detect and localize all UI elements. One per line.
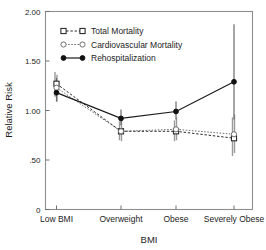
data-point-marker — [118, 129, 123, 134]
data-point-marker — [231, 132, 236, 137]
series-markers — [54, 79, 237, 140]
legend-marker — [61, 56, 66, 61]
y-axis-title: Relative Risk — [3, 82, 14, 138]
x-tick-label: Overweight — [100, 214, 144, 224]
data-point-marker — [54, 90, 59, 95]
legend-label: Rehospitalization — [91, 53, 156, 63]
data-point-marker — [232, 79, 237, 84]
chart-figure: 0.501.001.502.00 Low BMIOverweightObeseS… — [0, 0, 266, 250]
x-tick-label: Severely Obese — [204, 214, 265, 224]
x-tick-label: Obese — [163, 214, 188, 224]
data-point-marker — [119, 116, 124, 121]
series-lines — [57, 82, 235, 138]
y-tick-label: 2.00 — [25, 8, 41, 17]
y-tick-label: 1.50 — [25, 57, 41, 66]
data-point-marker — [54, 85, 59, 90]
chart-legend: Total MortalityCardiovascular MortalityR… — [61, 26, 183, 63]
series-line — [57, 82, 235, 119]
legend-marker — [80, 28, 85, 33]
x-tick-label: Low BMI — [40, 214, 73, 224]
legend-marker — [61, 42, 66, 47]
legend-marker — [80, 42, 85, 47]
series-line — [57, 88, 235, 135]
data-point-marker — [174, 109, 179, 114]
y-tick-label: .50 — [29, 156, 41, 165]
legend-label: Cardiovascular Mortality — [91, 40, 183, 50]
legend-item[interactable]: Rehospitalization — [61, 53, 156, 63]
x-axis-title: BMI — [141, 234, 158, 245]
legend-label: Total Mortality — [91, 26, 144, 36]
data-point-marker — [173, 127, 178, 132]
legend-item[interactable]: Cardiovascular Mortality — [61, 40, 183, 50]
relative-risk-by-bmi-chart: 0.501.001.502.00 Low BMIOverweightObeseS… — [0, 0, 266, 250]
legend-item[interactable]: Total Mortality — [61, 26, 144, 36]
legend-marker — [80, 56, 85, 61]
y-tick-label: 1.00 — [25, 107, 41, 116]
series-line — [57, 84, 235, 138]
x-axis: Low BMIOverweightObeseSeverely Obese — [40, 206, 265, 224]
legend-marker — [61, 28, 66, 33]
